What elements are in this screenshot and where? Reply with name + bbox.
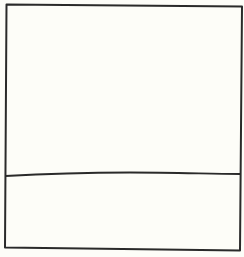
upper-section <box>7 6 240 172</box>
diagram-canvas <box>0 0 244 257</box>
horizontal-divider <box>6 173 241 177</box>
lower-section <box>6 177 239 248</box>
